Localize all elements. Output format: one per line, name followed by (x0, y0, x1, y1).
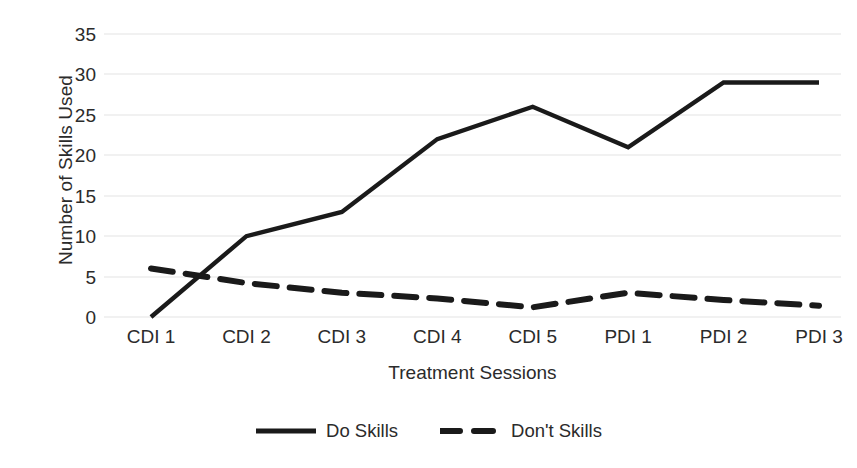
x-axis-tick-label: CDI 1 (127, 326, 176, 349)
y-axis-tick-label: 20 (38, 146, 96, 165)
x-axis-tick-labels: CDI 1CDI 2CDI 3CDI 4CDI 5PDI 1PDI 2PDI 3 (104, 326, 841, 356)
series-layer (104, 34, 841, 317)
legend-item[interactable]: Do Skills (255, 420, 398, 442)
y-axis-tick-label: 0 (38, 308, 96, 327)
y-axis-tick-labels: 05101520253035 (38, 0, 96, 468)
legend-label: Do Skills (326, 420, 398, 442)
legend-label: Don't Skills (511, 420, 602, 442)
y-axis-tick-label: 30 (38, 65, 96, 84)
y-axis-tick-label: 35 (38, 25, 96, 44)
plot-area (104, 34, 841, 317)
series-line-do-skills (151, 83, 819, 317)
y-axis-tick-label: 5 (38, 267, 96, 286)
legend-item[interactable]: Don't Skills (440, 420, 602, 442)
y-axis-tick-label: 25 (38, 105, 96, 124)
chart-legend: Do SkillsDon't Skills (0, 420, 857, 442)
y-axis-tick-label: 15 (38, 186, 96, 205)
y-axis-tick-label: 10 (38, 227, 96, 246)
x-axis-tick-label: CDI 2 (222, 326, 271, 349)
x-axis-tick-label: CDI 5 (508, 326, 557, 349)
x-axis-title: Treatment Sessions (104, 362, 841, 384)
series-line-dont-skills (151, 268, 819, 307)
x-axis-tick-label: CDI 4 (413, 326, 462, 349)
line-chart: Number of Skills Used 05101520253035 CDI… (0, 0, 857, 468)
x-axis-tick-label: CDI 3 (318, 326, 367, 349)
x-axis-tick-label: PDI 2 (700, 326, 748, 349)
dashed-line-swatch (440, 424, 502, 438)
solid-line-swatch (255, 424, 317, 438)
x-axis-tick-label: PDI 1 (604, 326, 652, 349)
x-axis-tick-label: PDI 3 (795, 326, 843, 349)
